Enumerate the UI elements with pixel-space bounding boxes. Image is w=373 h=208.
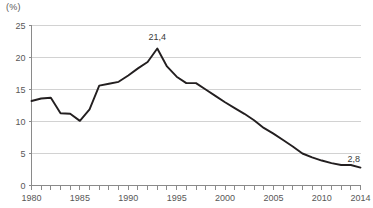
x-axis: 19801985199019952000200520102014 (21, 186, 370, 203)
y-tick-label: 25 (15, 21, 25, 31)
x-tick-label: 1990 (118, 193, 138, 203)
chart-page: (%) 0510152025 1980198519901995200020052… (0, 0, 373, 208)
y-tick-label: 10 (15, 117, 25, 127)
y-tick-label: 15 (15, 85, 25, 95)
x-tick-label: 2014 (350, 193, 370, 203)
end-label: 2,8 (347, 154, 360, 164)
x-tick-label: 1980 (21, 193, 41, 203)
x-tick-label: 1995 (167, 193, 187, 203)
y-tick-label: 20 (15, 53, 25, 63)
x-tick-label: 2000 (215, 193, 235, 203)
data-series (32, 49, 361, 168)
x-tick-label: 2005 (263, 193, 283, 203)
data-annotations: 21,42,8 (149, 32, 360, 164)
series-line (32, 49, 361, 168)
y-tick-label: 5 (20, 149, 25, 159)
x-tick-label: 1985 (70, 193, 90, 203)
x-tick-label: 2010 (312, 193, 332, 203)
y-axis: 0510152025 (15, 21, 31, 191)
gridlines (32, 26, 361, 154)
line-chart: 0510152025 19801985199019952000200520102… (0, 0, 373, 208)
y-tick-label: 0 (20, 181, 25, 191)
peak-label: 21,4 (149, 32, 167, 42)
